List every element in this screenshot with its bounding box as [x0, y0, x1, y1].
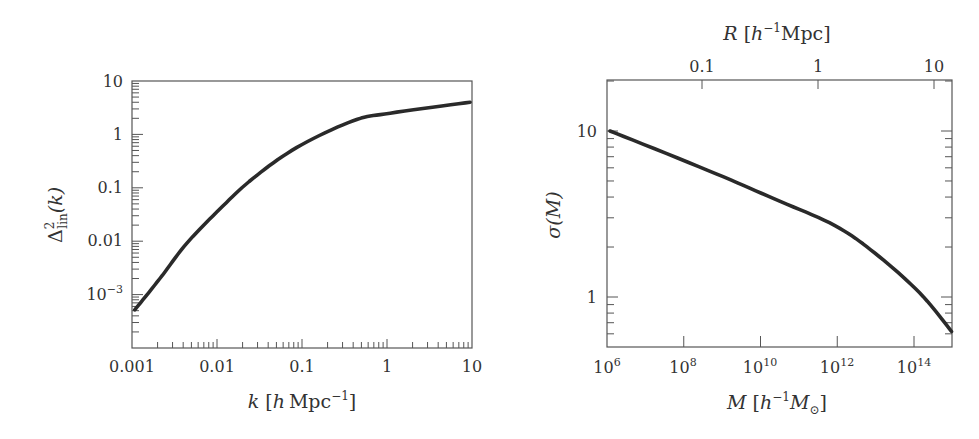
- figure-canvas: 10 1 0.1 0.01 10−3 0.001 0.01 0.1 1 10 k…: [0, 0, 979, 439]
- right-top-tick-0.1: 0.1: [689, 57, 714, 76]
- right-x-tick-1e14: 1014: [897, 356, 931, 377]
- left-x-axis-label: k[hMpc−1]: [248, 389, 357, 412]
- right-y-tick-1: 1: [587, 288, 597, 307]
- left-x-tick-1: 1: [382, 357, 392, 376]
- right-top-tick-1: 1: [813, 57, 823, 76]
- right-x-tick-1e8: 108: [669, 356, 696, 377]
- left-x-tick-10: 10: [462, 357, 482, 376]
- left-chart-frame: [132, 81, 472, 348]
- right-chart-sigma-curve: [610, 131, 952, 332]
- left-y-tick-1: 1: [113, 125, 123, 144]
- right-x-tick-1e6: 106: [593, 356, 620, 377]
- left-x-tick-0.1: 0.1: [289, 357, 314, 376]
- right-top-tick-10: 10: [924, 57, 944, 76]
- right-top-axis-label: R[h−1Mpc]: [722, 21, 830, 44]
- left-y-axis-label: Δ2lin(k): [43, 187, 70, 243]
- right-chart-frame: [607, 80, 952, 347]
- left-x-tick-0.001: 0.001: [109, 357, 155, 376]
- left-y-tick-1e-3: 10−3: [86, 283, 123, 304]
- right-y-tick-10: 10: [577, 122, 597, 141]
- right-x-tick-1e12: 1012: [820, 356, 854, 377]
- left-chart-ticks: [132, 83, 468, 348]
- right-chart-ticks: [607, 80, 952, 347]
- right-x-axis-label: M[h−1M⊙]: [726, 390, 827, 417]
- left-y-tick-0.1: 0.1: [98, 178, 123, 197]
- right-chart: 10 1 106 108 1010 1012 1014 0.1 1 10 R[h…: [542, 21, 952, 417]
- left-chart: 10 1 0.1 0.01 10−3 0.001 0.01 0.1 1 10 k…: [43, 72, 482, 412]
- right-x-tick-1e10: 1010: [743, 356, 777, 377]
- right-y-axis-label: σ(M): [542, 191, 564, 238]
- left-x-tick-0.01: 0.01: [199, 357, 235, 376]
- left-y-tick-0.01: 0.01: [87, 231, 123, 250]
- left-y-tick-10: 10: [103, 72, 123, 91]
- left-chart-power-spectrum-curve: [135, 102, 470, 310]
